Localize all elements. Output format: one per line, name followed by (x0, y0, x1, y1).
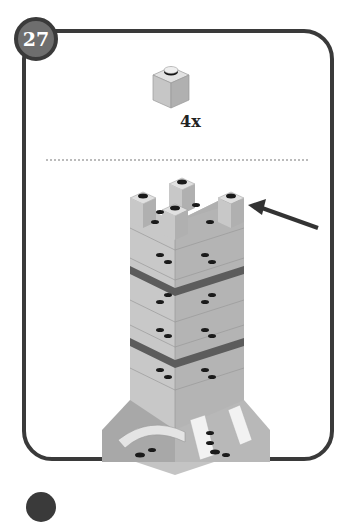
part-quantity: 4x (180, 112, 201, 131)
section-divider (46, 159, 308, 161)
pointer-arrow-icon (248, 199, 318, 228)
tower-model (102, 178, 270, 475)
brick-1x1-icon (153, 67, 189, 109)
